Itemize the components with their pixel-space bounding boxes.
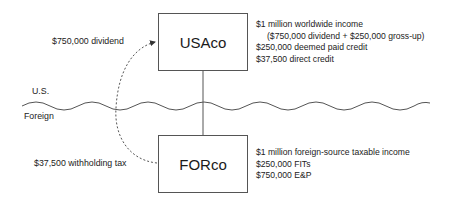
forco-note-fits: $250,000 FITs [256,159,410,171]
forco-note-taxable-income: $1 million foreign-source taxable income [256,147,410,159]
usaco-note-income-breakdown: ($750,000 dividend + $250,000 gross-up) [256,31,424,43]
border-wave-line [22,102,430,110]
us-region-label: U.S. [32,86,49,96]
usaco-notes: $1 million worldwide income ($750,000 di… [256,19,424,65]
withholding-tax-label: $37,500 withholding tax [34,158,126,168]
usaco-note-deemed-paid-credit: $250,000 deemed paid credit [256,42,424,54]
usaco-box: USAco [158,13,248,71]
usaco-note-direct-credit: $37,500 direct credit [256,54,424,66]
foreign-region-label: Foreign [24,111,54,121]
dividend-flow-label: $750,000 dividend [52,36,124,46]
forco-label: FORco [179,156,227,173]
forco-notes: $1 million foreign-source taxable income… [256,147,410,182]
usaco-note-worldwide-income: $1 million worldwide income [256,19,424,31]
usaco-label: USAco [180,34,227,51]
forco-box: FORco [158,135,248,193]
forco-note-eandp: $750,000 E&P [256,170,410,182]
